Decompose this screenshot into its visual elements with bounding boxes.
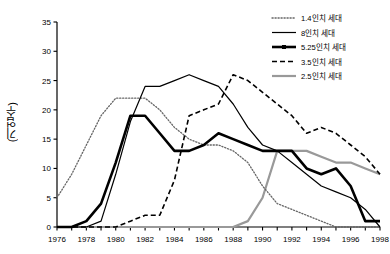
y-tick-label: 35 [42,18,51,27]
x-tick-label: 1982 [136,235,154,244]
line-chart-plot: 0510152025303519761978198019821984198619… [0,0,390,254]
y-tick-label: 20 [42,106,51,115]
legend-label-5: 2.5인치 세대 [301,71,342,81]
legend-label-1: 1.4인치 세대 [301,13,342,23]
legend-label-4: 3.5인치 세대 [301,57,342,67]
x-tick-label: 1998 [371,235,389,244]
y-tick-label: 5 [47,194,52,203]
y-tick-label: 15 [42,135,51,144]
x-tick-label: 1976 [48,235,66,244]
x-tick-label: 1990 [254,235,272,244]
x-tick-label: 1994 [312,235,330,244]
x-tick-label: 1984 [166,235,184,244]
x-tick-label: 1988 [224,235,242,244]
x-tick-label: 1980 [107,235,125,244]
chart-container: (기업수) 0510152025303519761978198019821984… [0,0,390,254]
x-tick-label: 1996 [342,235,360,244]
series-line-3 [57,116,380,227]
y-tick-label: 30 [42,47,51,56]
x-tick-label: 1986 [195,235,213,244]
series-line-2 [57,75,380,227]
legend-label-3: 5.25인치 세대 [301,42,346,52]
x-tick-label: 1992 [283,235,301,244]
legend-marker-3 [282,45,286,49]
y-tick-label: 25 [42,77,51,86]
y-tick-label: 10 [42,164,51,173]
series-line-4 [57,75,380,227]
x-tick-label: 1978 [77,235,95,244]
legend-label-2: 8인치 세대 [301,28,335,38]
y-tick-label: 0 [47,223,52,232]
